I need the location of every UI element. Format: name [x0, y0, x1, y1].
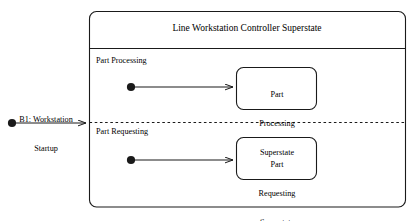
state-name-line-3: Superstate [237, 218, 317, 221]
state-name-line-1: Part [237, 90, 317, 100]
uml-state-diagram: Line Workstation Controller Superstate P… [0, 0, 418, 221]
transition-label-workstation-startup: B1: Workstation Startup [4, 96, 88, 173]
state-name-part-requesting-superstate: Part Requesting Superstate [237, 141, 317, 221]
region-label-part-requesting: Part Requesting [96, 127, 148, 137]
state-name-line-1: Part [237, 160, 317, 170]
state-name-line-2: Processing [237, 119, 317, 129]
initial-state-dot-part-processing [127, 83, 135, 91]
region-label-part-processing: Part Processing [96, 56, 147, 66]
transition-label-line-1: B1: Workstation [4, 115, 88, 125]
superstate-title: Line Workstation Controller Superstate [89, 23, 405, 34]
state-name-line-2: Requesting [237, 189, 317, 199]
initial-state-dot-part-requesting [127, 156, 135, 164]
transition-label-line-2: Startup [4, 144, 88, 154]
